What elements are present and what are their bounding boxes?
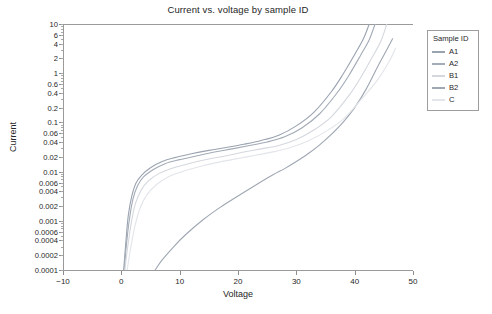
x-tick-label: 50 xyxy=(409,277,418,286)
y-tick-label: 0.0006 xyxy=(0,227,58,236)
x-tick-mark xyxy=(355,271,356,275)
y-tick-label: 0.002 xyxy=(0,201,58,210)
series-line-a2 xyxy=(124,24,375,270)
legend-item-label: B1 xyxy=(449,70,458,82)
x-tick-mark xyxy=(63,271,64,275)
legend-item-label: B2 xyxy=(449,82,458,94)
legend-item-label: A2 xyxy=(449,58,458,70)
legend-swatch-icon xyxy=(432,99,445,100)
y-tick-label: 0.0002 xyxy=(0,251,58,260)
x-tick-label: 10 xyxy=(175,277,184,286)
y-tick-label: 0.4 xyxy=(0,88,58,97)
x-tick-label: 20 xyxy=(234,277,243,286)
y-tick-label: 10 xyxy=(0,20,58,29)
chart-figure: Current vs. voltage by sample ID 1064210… xyxy=(0,0,492,314)
legend-item-c[interactable]: C xyxy=(432,94,474,106)
chart-title: Current vs. voltage by sample ID xyxy=(63,4,413,15)
y-tick-label: 6 xyxy=(0,30,58,39)
y-tick-label: 4 xyxy=(0,39,58,48)
y-tick-label: 0.0004 xyxy=(0,236,58,245)
series-line-a1 xyxy=(124,24,370,270)
legend-item-b1[interactable]: B1 xyxy=(432,70,474,82)
y-tick-label: 2 xyxy=(0,54,58,63)
data-curves xyxy=(63,24,413,270)
legend-item-label: C xyxy=(449,94,454,106)
y-tick-label: 0.004 xyxy=(0,187,58,196)
legend-entries: A1A2B1B2C xyxy=(432,46,474,106)
x-tick-mark xyxy=(180,271,181,275)
x-tick-mark xyxy=(413,271,414,275)
legend-swatch-icon xyxy=(432,63,445,64)
x-tick-label: 0 xyxy=(119,277,123,286)
y-tick-label: 0.006 xyxy=(0,178,58,187)
legend-swatch-icon xyxy=(432,87,445,88)
legend: Sample ID A1A2B1B2C xyxy=(427,30,479,111)
x-tick-mark xyxy=(296,271,297,275)
legend-title: Sample ID xyxy=(432,34,474,43)
legend-swatch-icon xyxy=(432,75,445,76)
x-axis-title: Voltage xyxy=(63,289,413,299)
legend-item-a2[interactable]: A2 xyxy=(432,58,474,70)
y-tick-label: 1 xyxy=(0,69,58,78)
legend-item-label: A1 xyxy=(449,46,458,58)
y-tick-label: 0.001 xyxy=(0,216,58,225)
x-tick-label: 40 xyxy=(350,277,359,286)
legend-swatch-icon xyxy=(432,51,445,52)
series-line-b1 xyxy=(125,24,387,270)
y-tick-label: 0.6 xyxy=(0,80,58,89)
y-tick-label: 0.0001 xyxy=(0,266,58,275)
legend-item-a1[interactable]: A1 xyxy=(432,46,474,58)
x-tick-mark xyxy=(121,271,122,275)
x-tick-label: −10 xyxy=(56,277,70,286)
x-tick-mark xyxy=(238,271,239,275)
y-tick-label: 0.01 xyxy=(0,167,58,176)
y-axis-title: Current xyxy=(8,107,18,167)
legend-item-b2[interactable]: B2 xyxy=(432,82,474,94)
x-tick-label: 30 xyxy=(292,277,301,286)
